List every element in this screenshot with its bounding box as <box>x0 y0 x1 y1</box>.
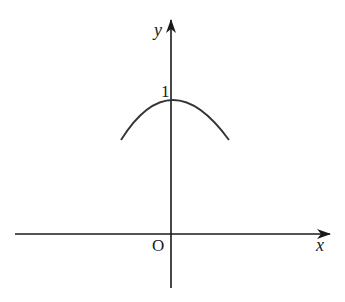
y-tick-label-1: 1 <box>161 82 170 101</box>
origin-label: O <box>152 236 164 255</box>
x-axis-label: x <box>315 235 324 255</box>
coordinate-diagram: y x O 1 <box>0 0 345 302</box>
y-axis-label: y <box>152 20 162 40</box>
curve <box>121 100 229 140</box>
